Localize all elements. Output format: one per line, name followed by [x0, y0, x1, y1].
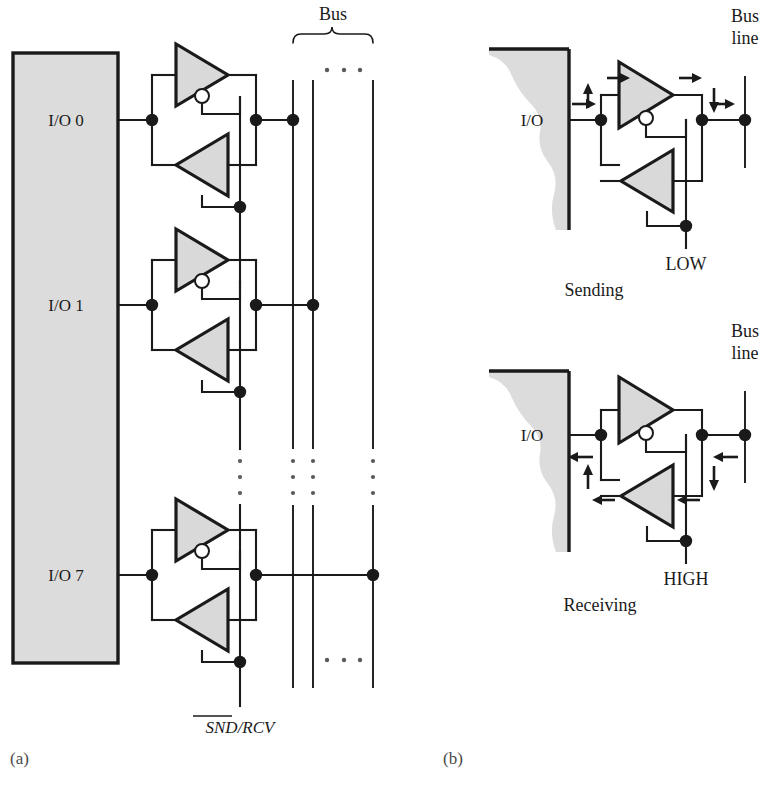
ellipsis-dot: [238, 459, 242, 463]
ellipsis-dot: [358, 658, 362, 662]
io-label-receiving: I/O: [521, 426, 544, 445]
bus-brace: [293, 27, 373, 43]
sending-diagram: I/O: [489, 6, 759, 300]
enable-bubble-1: [195, 274, 209, 288]
ellipsis-dot: [238, 475, 242, 479]
bus-lines: [291, 68, 375, 688]
control-rail: SND/RCV: [193, 97, 277, 737]
tristate-buffer-in-7: [176, 589, 228, 651]
ellipsis-dot: [342, 658, 346, 662]
circuit-diagram-svg: I/O 0: [0, 0, 780, 792]
figure-root: I/O 0: [0, 0, 780, 792]
junction-dot: [250, 114, 262, 126]
tristate-buffer-in-receiving: [621, 465, 673, 527]
io-label-sending: I/O: [521, 111, 544, 130]
ellipsis-dot: [342, 68, 346, 72]
junction-dot: [146, 114, 158, 126]
io-port-label-7: I/O 7: [48, 566, 84, 585]
ellipsis-dot: [291, 459, 295, 463]
control-state-label-sending: LOW: [666, 254, 707, 274]
control-state-label-receiving: HIGH: [664, 569, 709, 589]
ellipsis-dot: [325, 658, 329, 662]
junction-dot: [595, 114, 607, 126]
ellipsis-dot: [371, 475, 375, 479]
panel-b-caption: (b): [443, 749, 463, 768]
junction-dot: [250, 569, 262, 581]
ellipsis-dot: [371, 459, 375, 463]
junction-dot: [696, 114, 708, 126]
ellipsis-dot: [311, 459, 315, 463]
bus-tap-dot-receiving: [739, 429, 751, 441]
ellipsis-dot: [358, 68, 362, 72]
receiving-diagram: I/O: [489, 321, 759, 615]
ellipsis-dot: [325, 68, 329, 72]
bus-brace-group: Bus: [293, 4, 373, 43]
control-tap-dot-receiving: [680, 535, 692, 547]
receiving-caption: Receiving: [564, 595, 637, 615]
control-signal-label: SND/RCV: [206, 718, 278, 737]
enable-bubble-sending: [639, 111, 653, 125]
junction-dot: [595, 429, 607, 441]
ellipsis-dot: [238, 491, 242, 495]
sending-caption: Sending: [564, 280, 623, 300]
panel-a: I/O 0: [10, 4, 379, 768]
bus-line-label-sending-1: Bus: [731, 6, 759, 26]
enable-bubble-receiving: [639, 426, 653, 440]
ellipsis-dot: [291, 475, 295, 479]
bus-line-label-receiving-1: Bus: [731, 321, 759, 341]
tristate-buffer-in-1: [176, 319, 228, 381]
enable-bubble-0: [195, 89, 209, 103]
io-port-label-0: I/O 0: [48, 111, 83, 130]
junction-dot: [696, 429, 708, 441]
bus-line-label-receiving-2: line: [732, 343, 759, 363]
junction-dot: [146, 569, 158, 581]
control-tap-dot-sending: [680, 220, 692, 232]
panel-b: I/O: [443, 6, 759, 768]
bus-tap-dot-sending: [739, 114, 751, 126]
chip-fragment-fill-receiving: [489, 371, 569, 552]
junction-dot: [146, 299, 158, 311]
chip-fragment-fill-sending: [489, 49, 569, 230]
bus-label: Bus: [319, 4, 347, 24]
ellipsis-dot: [311, 491, 315, 495]
enable-bubble-7: [195, 544, 209, 558]
ellipsis-dot: [311, 475, 315, 479]
ellipsis-dot: [291, 491, 295, 495]
tristate-buffer-in-0: [176, 134, 228, 196]
ellipsis-dot: [371, 491, 375, 495]
bus-line-label-sending-2: line: [732, 28, 759, 48]
panel-a-caption: (a): [10, 749, 29, 768]
io-port-label-1: I/O 1: [48, 296, 83, 315]
junction-dot: [250, 299, 262, 311]
tristate-buffer-in-sending: [621, 150, 673, 212]
